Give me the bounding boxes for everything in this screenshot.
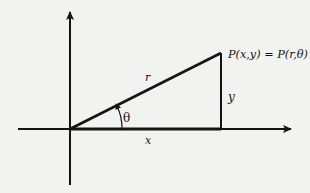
angle-arc	[117, 106, 122, 129]
hypotenuse-r	[70, 53, 221, 129]
diagram-svg: θ r y x P(x,y) = P(r,θ)	[0, 0, 310, 193]
polar-coordinates-diagram: θ r y x P(x,y) = P(r,θ)	[0, 0, 310, 193]
angle-label: θ	[123, 111, 130, 125]
hypotenuse-label: r	[145, 71, 151, 84]
horizontal-side-label: x	[145, 134, 152, 147]
vertical-side-label: y	[227, 90, 235, 104]
point-label: P(x,y) = P(r,θ)	[227, 48, 308, 61]
